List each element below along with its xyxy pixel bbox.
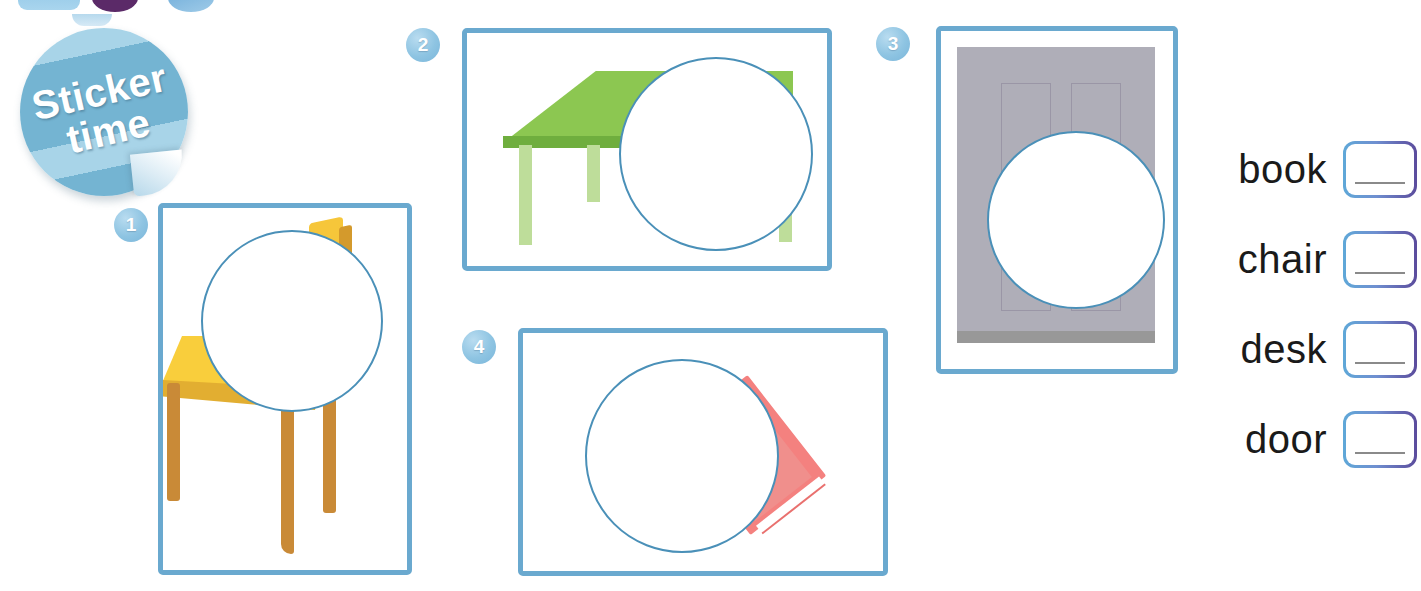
cropped-header-chip-purple <box>92 0 138 12</box>
sticker-placeholder-circle-4[interactable] <box>585 359 779 553</box>
picture-frame-door <box>936 26 1178 374</box>
writing-line-book <box>1355 182 1405 184</box>
panel-number-badge-4: 4 <box>462 330 496 364</box>
cropped-header-chip-rounded <box>18 0 80 10</box>
answer-box-book[interactable] <box>1343 141 1417 198</box>
sticker-placeholder-circle-2[interactable] <box>619 57 813 251</box>
sticker-placeholder-circle-1[interactable] <box>201 230 383 412</box>
writing-line-desk <box>1355 362 1405 364</box>
chair-leg-front-left <box>167 383 180 501</box>
word-row-chair: chair <box>1232 214 1417 304</box>
writing-line-chair <box>1355 272 1405 274</box>
chair-leg-front-right <box>281 404 294 554</box>
answer-box-inner-door <box>1346 414 1414 465</box>
desk-leg-middle <box>587 145 600 202</box>
answer-box-inner-desk <box>1346 324 1414 375</box>
sticker-label: Sticker time <box>3 11 204 212</box>
answer-box-inner-book <box>1346 144 1414 195</box>
word-label-chair: chair <box>1238 237 1327 282</box>
word-row-desk: desk <box>1232 304 1417 394</box>
sticker-time-badge: Sticker time <box>20 28 188 196</box>
answer-box-inner-chair <box>1346 234 1414 285</box>
sticker-placeholder-circle-3[interactable] <box>987 131 1165 309</box>
picture-frame-chair <box>158 203 412 575</box>
desk-leg-left <box>519 145 532 245</box>
word-row-book: book <box>1232 124 1417 214</box>
panel-number-badge-2: 2 <box>406 28 440 62</box>
picture-frame-desk <box>462 28 832 271</box>
answer-box-desk[interactable] <box>1343 321 1417 378</box>
door-threshold <box>957 331 1155 343</box>
panel-number-badge-3: 3 <box>876 27 910 61</box>
word-label-desk: desk <box>1241 327 1328 372</box>
cropped-header-chip-blue <box>168 0 214 12</box>
picture-frame-book <box>518 328 888 576</box>
word-list: book chair desk door <box>1232 124 1417 484</box>
writing-line-door <box>1355 452 1405 454</box>
word-row-door: door <box>1232 394 1417 484</box>
answer-box-chair[interactable] <box>1343 231 1417 288</box>
panel-number-badge-1: 1 <box>114 208 148 242</box>
answer-box-door[interactable] <box>1343 411 1417 468</box>
word-label-door: door <box>1245 417 1327 462</box>
word-label-book: book <box>1238 147 1327 192</box>
